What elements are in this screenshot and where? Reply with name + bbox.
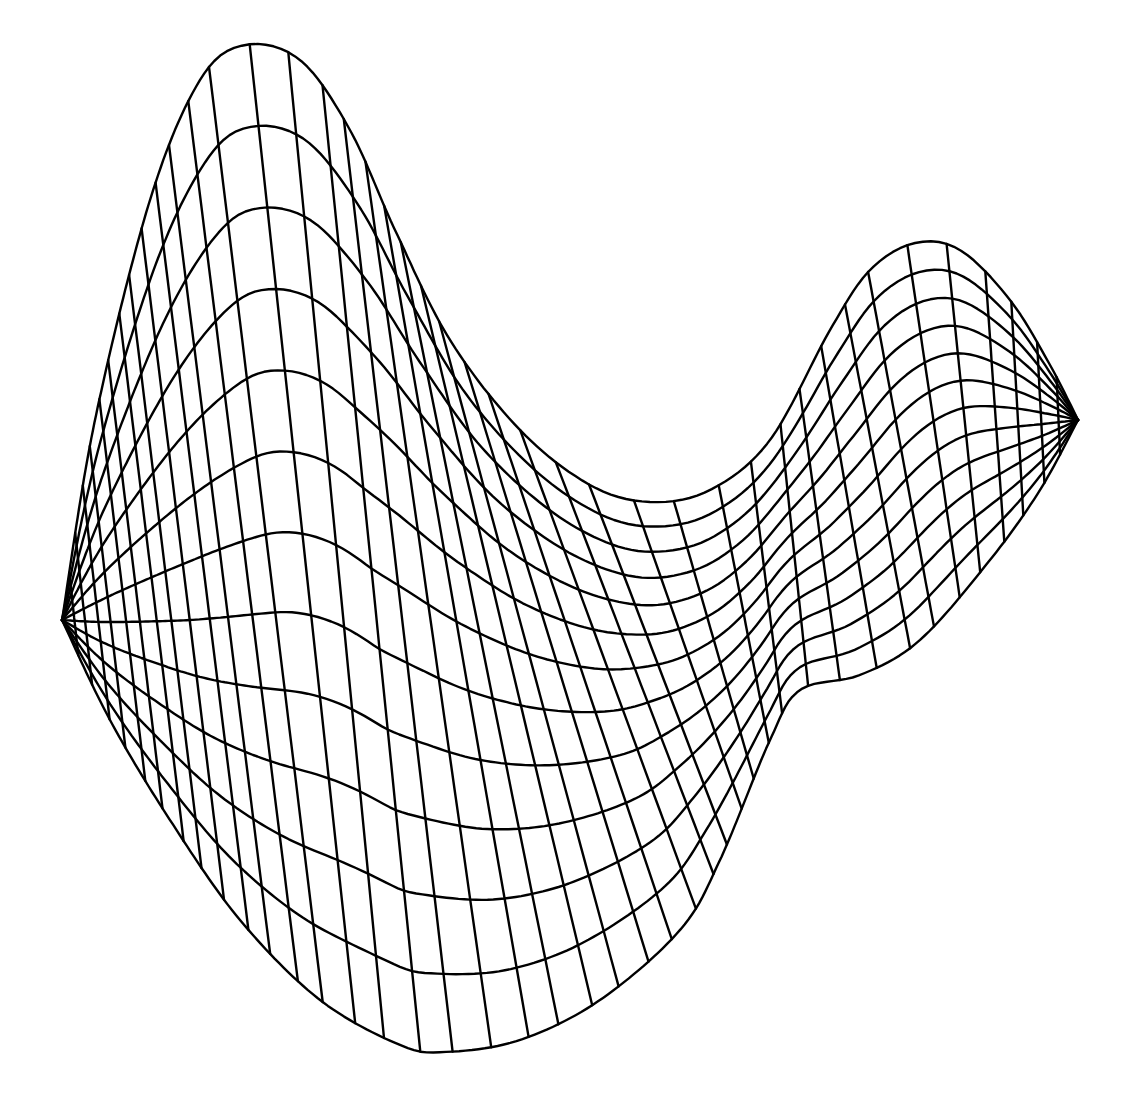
cross-grid-line: [781, 424, 809, 686]
cross-grid-line: [589, 485, 727, 845]
saddle-surface-figure: [0, 0, 1139, 1116]
cross-grid-line: [439, 322, 618, 987]
cross-grid-line: [845, 305, 910, 649]
cross-grid-lines: [62, 44, 1078, 1051]
cross-grid-line: [719, 485, 769, 742]
cross-grid-line: [344, 119, 453, 1052]
cross-grid-line: [188, 101, 298, 981]
cross-grid-line: [142, 229, 224, 900]
cross-grid-line: [75, 533, 92, 685]
cross-grid-line: [169, 145, 270, 954]
cross-grid-line: [401, 242, 559, 1024]
cross-grid-line: [83, 486, 110, 720]
cross-grid-line: [868, 272, 934, 626]
cross-grid-line: [821, 346, 877, 668]
long-grid-line: [62, 406, 1078, 669]
cross-grid-line: [465, 362, 649, 962]
cross-grid-line: [947, 244, 981, 572]
long-grid-line: [62, 289, 1078, 620]
cross-grid-line: [366, 162, 492, 1047]
long-grid-line: [62, 207, 1078, 620]
wireframe-mesh: [0, 0, 1139, 1116]
long-grid-line: [62, 420, 1078, 829]
long-grid-lines: [62, 44, 1078, 1053]
